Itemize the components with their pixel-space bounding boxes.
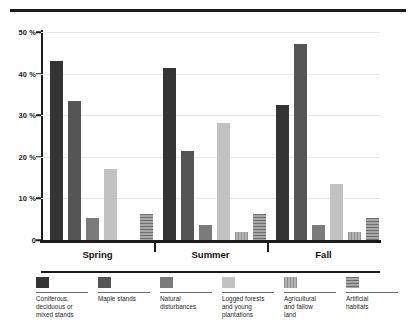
bar xyxy=(199,225,212,240)
legend-item: Natural disturbances xyxy=(160,277,221,320)
y-tick-label: 10 % xyxy=(19,194,42,203)
legend-label: Coniferous, deciduous or mixed stands xyxy=(36,295,97,320)
legend-item: Artificial habitats xyxy=(346,277,407,320)
legend-swatch-icon xyxy=(346,277,359,288)
bar xyxy=(181,151,194,240)
legend-swatch-icon xyxy=(160,277,173,288)
legend-swatch-icon xyxy=(36,277,49,288)
bar xyxy=(366,218,379,240)
chart-legend: Coniferous, deciduous or mixed standsMap… xyxy=(36,277,408,320)
category-label-summer: Summer xyxy=(191,249,229,260)
plot-area: 010 %20 %30 %40 %50 % xyxy=(41,32,380,240)
legend-item-underline xyxy=(160,292,212,293)
group-separator-tick xyxy=(154,243,156,252)
legend-item-underline xyxy=(222,292,274,293)
category-label-fall: Fall xyxy=(315,249,331,260)
bar xyxy=(50,61,63,240)
bar xyxy=(294,44,307,240)
legend-item-underline xyxy=(98,292,150,293)
y-tick-label: 0 xyxy=(32,236,41,245)
y-tick-label: 20 % xyxy=(19,152,42,161)
bar xyxy=(276,105,289,240)
bar xyxy=(68,101,81,240)
bar xyxy=(253,214,266,240)
legend-label: Logged forests and young plantations xyxy=(222,295,283,320)
legend-item: Coniferous, deciduous or mixed stands xyxy=(36,277,97,320)
bar xyxy=(140,214,153,240)
legend-item-underline xyxy=(284,292,336,293)
bar xyxy=(217,123,230,240)
bar xyxy=(86,218,99,240)
legend-item: Logged forests and young plantations xyxy=(222,277,283,320)
legend-item-underline xyxy=(36,292,88,293)
bar-chart-figure: 010 %20 %30 %40 %50 % SpringSummerFall C… xyxy=(0,0,413,333)
legend-swatch-icon xyxy=(284,277,297,288)
category-label-spring: Spring xyxy=(82,249,112,260)
legend-label: Artificial habitats xyxy=(346,295,407,311)
y-tick-label: 40 % xyxy=(19,69,42,78)
group-separator-tick xyxy=(267,243,269,252)
legend-label: Maple stands xyxy=(98,295,159,303)
legend-label: Natural disturbances xyxy=(160,295,221,311)
legend-item: Maple stands xyxy=(98,277,159,320)
bars-layer xyxy=(41,32,380,240)
legend-label: Agricultural and fallow land xyxy=(284,295,345,320)
legend-item: Agricultural and fallow land xyxy=(284,277,345,320)
x-axis-line xyxy=(40,240,381,243)
y-tick-label: 30 % xyxy=(19,111,42,120)
legend-swatch-icon xyxy=(222,277,235,288)
bar xyxy=(235,232,248,240)
bar xyxy=(104,169,117,240)
bar xyxy=(312,225,325,240)
bar xyxy=(348,232,361,240)
legend-swatch-icon xyxy=(98,277,111,288)
bar xyxy=(330,184,343,240)
y-tick-label: 50 % xyxy=(19,28,42,37)
bar xyxy=(163,68,176,240)
top-divider-rule xyxy=(10,9,406,12)
legend-divider-rule xyxy=(41,271,380,273)
legend-item-underline xyxy=(346,292,398,293)
